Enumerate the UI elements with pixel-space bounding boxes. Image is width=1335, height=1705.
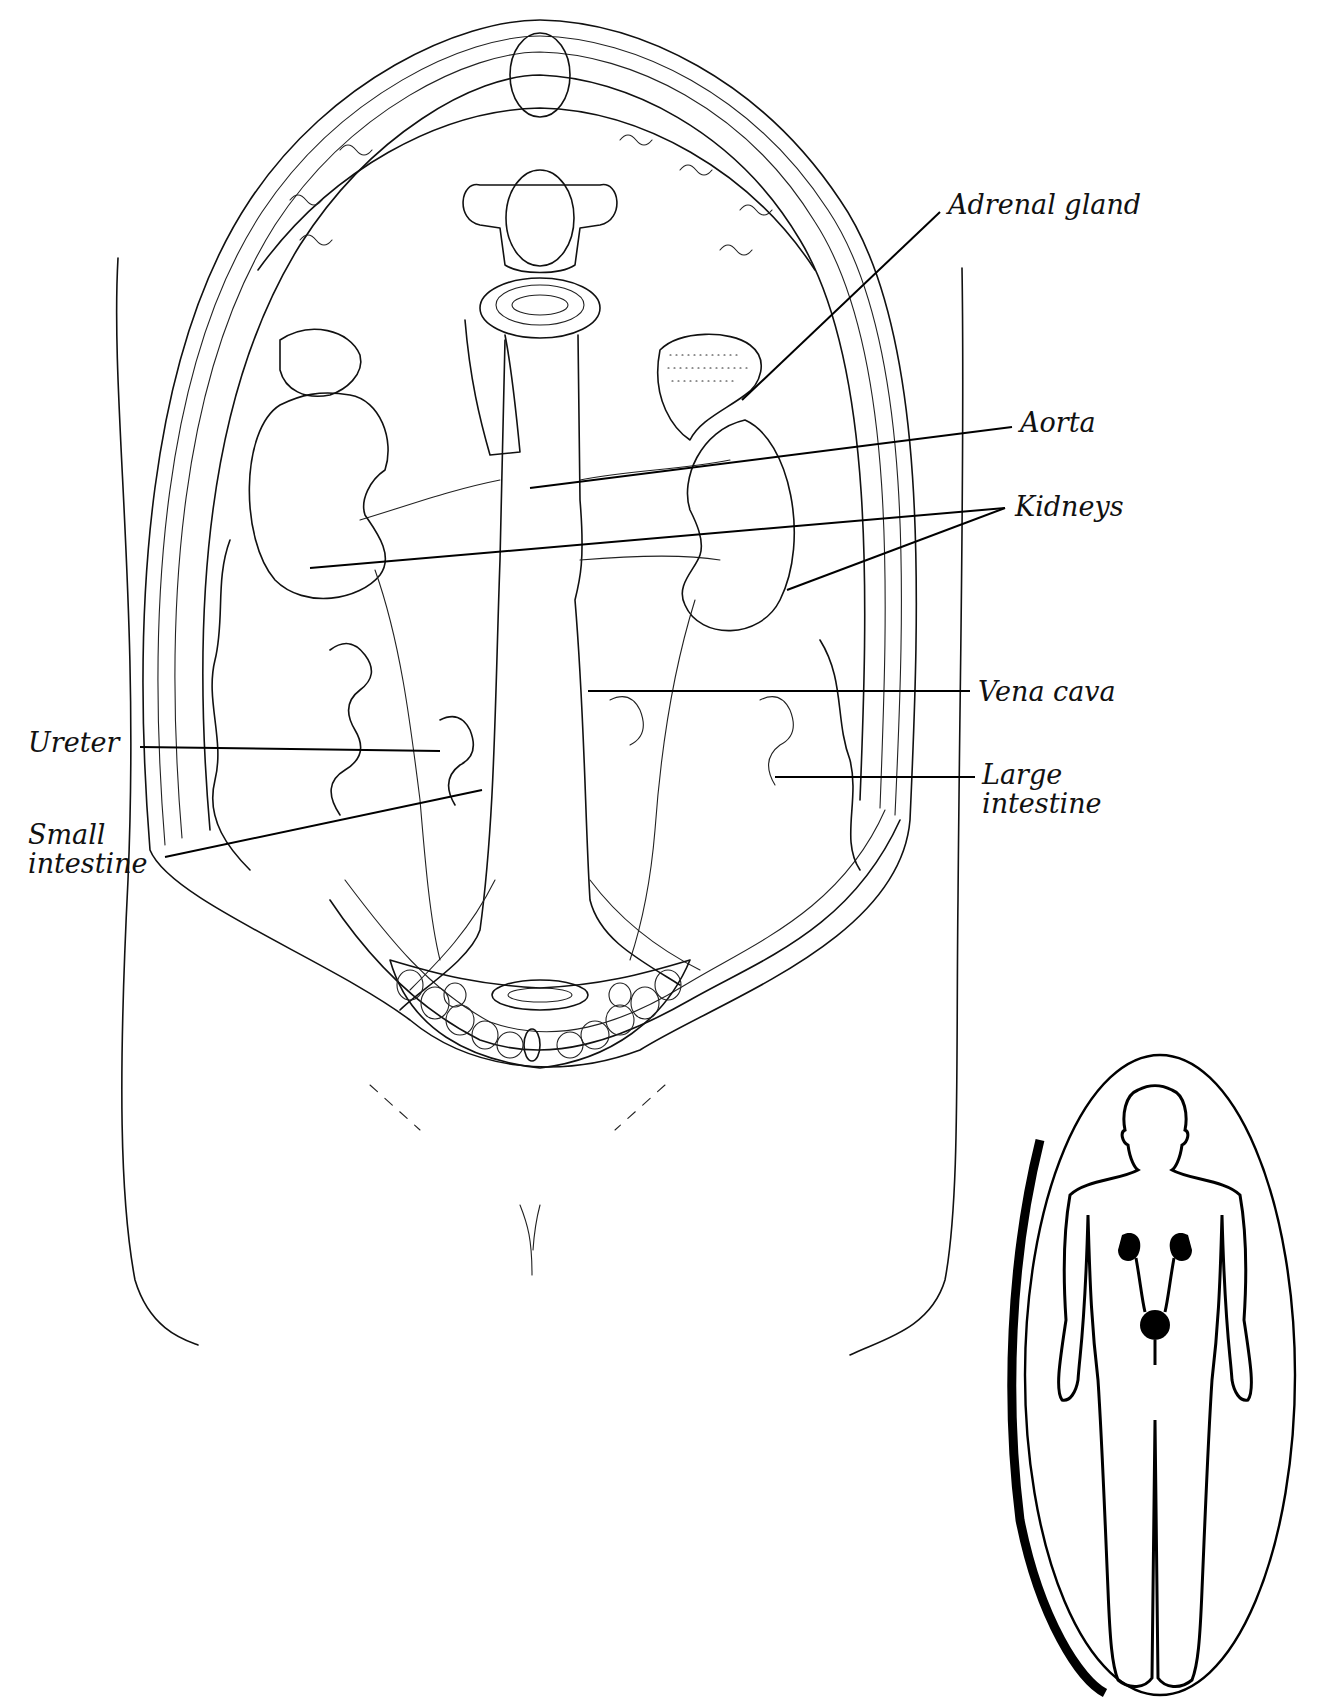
leader-kidneys-right — [787, 508, 1005, 590]
anatomy-diagram: Adrenal gland Aorta Kidneys Vena cava Ur… — [0, 0, 1335, 1705]
leader-aorta — [530, 427, 1012, 488]
adrenal-gland-left — [280, 329, 361, 396]
right-colon-folds — [610, 697, 793, 785]
incision-outer — [143, 20, 916, 1067]
abdomen-illustration — [0, 0, 1335, 1705]
inset-body-map — [1012, 1055, 1295, 1695]
ureter-left — [375, 570, 440, 960]
torso-left-outline — [117, 258, 198, 1345]
label-adrenal-gland: Adrenal gland — [948, 190, 1141, 219]
label-large-intestine: Large intestine — [982, 760, 1102, 818]
leader-adrenal-gland — [742, 212, 940, 400]
sacral-disc — [492, 980, 588, 1010]
hip-dash-right — [615, 1085, 665, 1130]
spine-disc — [480, 278, 600, 338]
inset-bladder — [1140, 1310, 1170, 1340]
coccyx — [524, 1029, 540, 1061]
aorta-branch-renal-left — [360, 480, 500, 520]
large-intestine-right — [820, 640, 860, 870]
large-intestine-left — [212, 540, 250, 870]
incision-layer-3 — [175, 52, 885, 838]
small-intestine-loops — [330, 644, 473, 815]
label-aorta: Aorta — [1020, 408, 1096, 437]
groin-line — [520, 1205, 540, 1275]
leader-lines — [140, 212, 1012, 857]
aorta-branch-renal-right — [580, 460, 730, 480]
iliac-right — [590, 880, 700, 970]
label-ureter: Ureter — [28, 728, 119, 757]
lower-wall-curve-2 — [345, 810, 885, 1032]
label-small-intestine: Small intestine — [28, 820, 148, 878]
spine-disc-ring-1 — [496, 285, 584, 325]
fat-cells — [397, 970, 681, 1058]
ureter-right — [630, 600, 695, 960]
label-vena-cava: Vena cava — [978, 677, 1116, 706]
sacral-disc-ring — [508, 988, 572, 1002]
leader-ureter — [140, 747, 440, 751]
aorta-trunk — [400, 340, 505, 1010]
vertebra-outline — [463, 185, 617, 273]
torso-right-outline — [850, 268, 963, 1355]
adrenal-texture — [668, 355, 748, 381]
psoas-left — [465, 320, 520, 455]
adrenal-gland-right — [658, 334, 761, 440]
incision-layer-2 — [158, 36, 901, 845]
hip-dash-left — [370, 1085, 420, 1130]
vena-cava-trunk — [575, 335, 680, 985]
spine-disc-ring-2 — [512, 295, 568, 315]
iliac-left — [410, 880, 495, 990]
label-kidneys: Kidneys — [1015, 492, 1124, 521]
back-muscle-texture — [290, 135, 772, 255]
kidney-right — [682, 420, 794, 631]
lower-wall-curve — [330, 820, 900, 1050]
